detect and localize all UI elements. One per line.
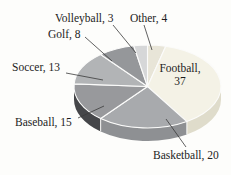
slice-label-soccer: Soccer, 13	[12, 61, 60, 73]
slice-label-baseball: Baseball, 15	[15, 116, 72, 128]
slice-label-other: Other, 4	[130, 12, 167, 24]
slice-label-football: Football, 37	[149, 62, 211, 88]
slice-label-football-line1: Football,	[149, 62, 211, 75]
slice-label-volleyball: Volleyball, 3	[55, 12, 114, 24]
pie-chart-figure: Volleyball, 3 Other, 4 Golf, 8 Soccer, 1…	[0, 0, 231, 175]
slice-label-golf: Golf, 8	[48, 28, 81, 40]
slice-label-football-line2: 37	[149, 75, 211, 88]
slice-label-basketball: Basketball, 20	[153, 149, 219, 161]
